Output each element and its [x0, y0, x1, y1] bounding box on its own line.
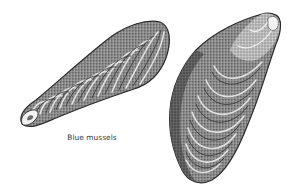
mussel-drawing: [0, 0, 296, 195]
figure-caption: Blue mussels: [60, 133, 124, 142]
mussel-illustration: Blue mussels: [0, 0, 296, 195]
left-mussel-shell: [21, 21, 170, 126]
right-mussel-shell: [170, 13, 281, 183]
